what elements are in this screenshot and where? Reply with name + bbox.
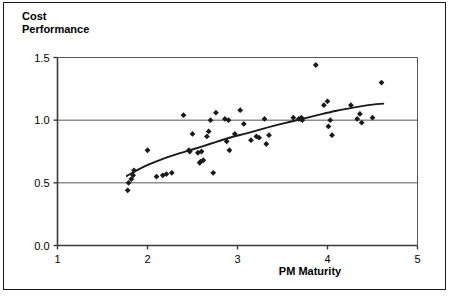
y-tick-label: 0.0 [34,240,49,252]
data-point [213,110,219,116]
data-point [169,170,175,176]
data-point [154,174,160,180]
data-point [125,187,131,193]
data-point [354,116,360,122]
data-point [327,117,333,123]
data-point [208,117,214,123]
data-point [326,124,332,130]
data-point [204,134,210,140]
data-point [181,112,187,118]
axis-ticks [54,58,418,250]
gridlines [58,120,418,183]
scatter-plot: 0.00.51.01.512345 PM Maturity [0,0,449,302]
y-tick-label: 1.0 [34,114,49,126]
x-tick-label: 3 [234,253,240,265]
chart-figure: Cost Performance 0.00.51.01.512345 PM Ma… [0,0,449,302]
data-point [237,107,243,113]
plot-axes [58,58,418,246]
data-points [125,62,385,193]
data-point [321,102,327,108]
data-point [263,141,269,147]
data-point [313,62,319,68]
data-point [206,129,212,135]
x-tick-label: 5 [414,253,420,265]
data-point [379,80,385,86]
x-tick-label: 4 [324,253,330,265]
data-point [241,121,247,127]
tick-labels: 0.00.51.01.512345 [34,52,420,265]
data-point [262,116,268,122]
trendline [127,104,384,176]
data-point [266,132,272,138]
y-tick-label: 1.5 [34,52,49,64]
data-point [227,147,233,153]
data-point [357,111,363,117]
x-axis-title: PM Maturity [279,265,342,277]
data-point [190,131,196,137]
data-point [248,137,254,143]
x-tick-label: 2 [144,253,150,265]
x-tick-label: 1 [54,253,60,265]
data-point [210,170,216,176]
data-point [145,147,151,153]
data-point [329,132,335,138]
y-tick-label: 0.5 [34,177,49,189]
data-point [325,98,331,104]
